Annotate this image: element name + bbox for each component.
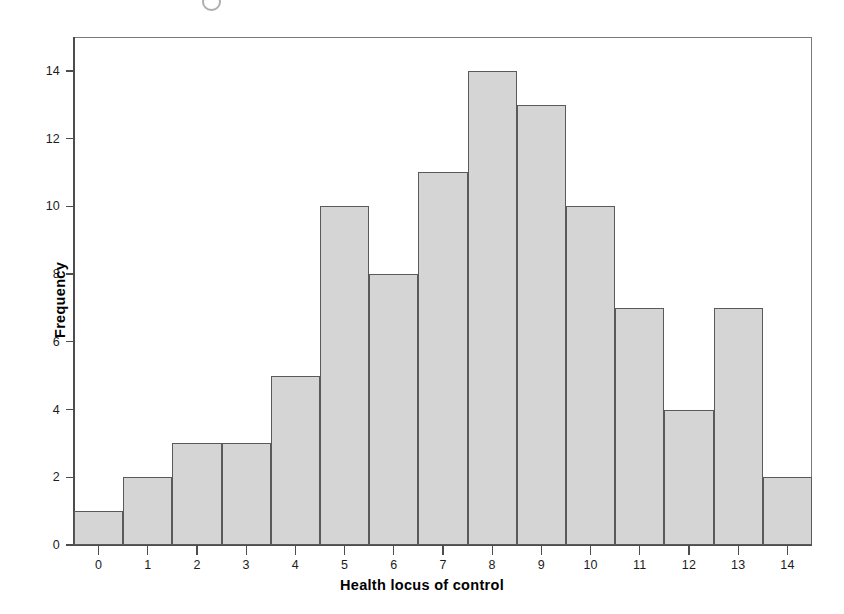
x-axis-tick-label: 13 <box>716 558 760 572</box>
x-axis-tick <box>393 546 394 555</box>
histogram-bar <box>320 206 369 545</box>
x-axis-tick-label: 3 <box>224 558 268 572</box>
histogram-bar <box>74 511 123 545</box>
histogram-bar <box>566 206 615 545</box>
x-axis-tick-label: 11 <box>618 558 662 572</box>
x-axis-tick-label: 9 <box>519 558 563 572</box>
histogram-bar <box>172 443 221 545</box>
y-axis-tick-label: 2 <box>20 470 60 484</box>
x-axis-tick-label: 0 <box>77 558 121 572</box>
histogram-bar <box>714 308 763 545</box>
y-axis-tick-label: 14 <box>20 64 60 78</box>
histogram-bar <box>664 410 713 545</box>
y-axis-tick <box>66 206 74 207</box>
x-axis-tick <box>295 546 296 555</box>
x-axis-tick-label: 12 <box>667 558 711 572</box>
x-axis-tick <box>688 546 689 555</box>
histogram-bar <box>517 105 566 545</box>
x-axis-tick <box>98 546 99 555</box>
x-axis-tick-label: 2 <box>175 558 219 572</box>
x-axis-tick <box>787 546 788 555</box>
x-axis-tick <box>590 546 591 555</box>
x-axis-tick-label: 14 <box>765 558 809 572</box>
x-axis-tick-label: 6 <box>372 558 416 572</box>
x-axis-tick <box>492 546 493 555</box>
y-axis-tick-label: 10 <box>20 199 60 213</box>
x-axis-tick <box>344 546 345 555</box>
histogram-bar <box>615 308 664 545</box>
x-axis-title: Health locus of control <box>0 577 844 593</box>
x-axis-tick-label: 5 <box>323 558 367 572</box>
x-axis-tick-label: 1 <box>126 558 170 572</box>
histogram-bar <box>763 477 812 545</box>
x-axis-tick <box>738 546 739 555</box>
y-axis-tick <box>66 544 74 545</box>
histogram-bar <box>418 172 467 545</box>
x-axis-tick <box>196 546 197 555</box>
histogram-figure: 02468101214 01234567891011121314 Frequen… <box>0 0 844 614</box>
scan-artifact-glyph <box>202 0 221 11</box>
x-axis-tick-label: 7 <box>421 558 465 572</box>
y-axis-tick-label: 12 <box>20 132 60 146</box>
x-axis-tick <box>442 546 443 555</box>
y-axis-tick <box>66 477 74 478</box>
x-axis-tick <box>246 546 247 555</box>
x-axis-tick <box>147 546 148 555</box>
histogram-bar <box>369 274 418 545</box>
y-axis-line <box>73 37 75 546</box>
y-axis-tick <box>66 138 74 139</box>
y-axis-title: Frequency <box>52 230 68 370</box>
y-axis-tick <box>66 70 74 71</box>
y-axis-tick-label: 4 <box>20 403 60 417</box>
x-axis-tick <box>541 546 542 555</box>
y-axis-tick-label: 0 <box>20 538 60 552</box>
histogram-bar <box>123 477 172 545</box>
x-axis-tick-label: 10 <box>569 558 613 572</box>
histogram-bar <box>271 376 320 545</box>
histogram-bar <box>222 443 271 545</box>
histogram-bar <box>468 71 517 545</box>
x-axis-tick <box>639 546 640 555</box>
y-axis-tick <box>66 409 74 410</box>
x-axis-tick-label: 8 <box>470 558 514 572</box>
x-axis-tick-label: 4 <box>273 558 317 572</box>
